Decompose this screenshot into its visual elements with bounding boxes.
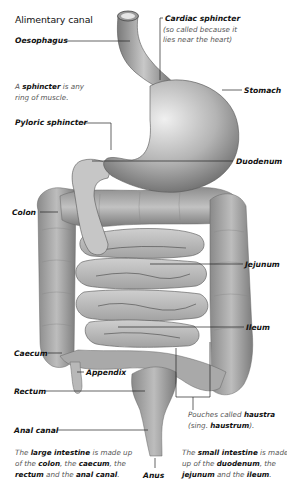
appendix-shape: [70, 362, 82, 393]
note-text: of the: [15, 459, 38, 468]
label-colon: Colon: [12, 208, 36, 217]
note-text: The: [182, 448, 198, 457]
label-rectum: Rectum: [14, 387, 46, 396]
label-duodenum: Duodenum: [236, 157, 282, 166]
note-text: The: [15, 448, 31, 457]
small-intestine-note-line3: jejunum and the ileum.: [182, 470, 272, 481]
sphincter-note-line2: ring of muscle.: [15, 93, 69, 104]
note-text: Pouches called: [188, 410, 244, 419]
small-intestine-note-line2: up of the duodenum, the: [182, 459, 276, 470]
note-text: and the: [215, 470, 247, 479]
note-text: is made: [258, 448, 287, 457]
stomach-shape: [104, 80, 239, 192]
haustra-note-line2: (sing. haustrum).: [188, 421, 254, 432]
haustra-note: Pouches called haustra: [188, 410, 275, 421]
rectum-shape: [132, 367, 177, 456]
note-text: , the: [110, 459, 126, 468]
label-jejunum: Jejunum: [245, 260, 280, 269]
label-anal-canal: Anal canal: [14, 426, 58, 435]
note-term-haustra: haustra: [244, 410, 275, 419]
large-intestine-note-line1: The large intestine is made up: [15, 448, 132, 459]
note-text: , the: [260, 459, 276, 468]
label-oesophagus: Oesophagus: [15, 36, 68, 45]
note-text: is any: [60, 82, 84, 91]
note-term-jejunum: jejunum: [182, 470, 215, 479]
note-text: and the: [44, 470, 76, 479]
label-cardiac-sphincter: Cardiac sphincter: [165, 14, 240, 23]
note-term-anal-canal: anal canal: [76, 470, 117, 479]
label-ileum: Ileum: [246, 323, 270, 332]
cardiac-note-line1: (so called because it: [163, 25, 237, 36]
note-term-ileum: ileum: [247, 470, 269, 479]
note-term-rectum: rectum: [15, 470, 44, 479]
label-appendix: Appendix: [86, 368, 126, 377]
cardiac-note-line2: lies near the heart): [163, 35, 232, 46]
note-term-large-intestine: large intestine: [31, 448, 90, 457]
small-intestine-note-line1: The small intestine is made: [182, 448, 287, 459]
note-text: .: [269, 470, 271, 479]
note-text: , the: [60, 459, 79, 468]
note-term-colon: colon: [38, 459, 60, 468]
oesophagus-shape: [117, 11, 176, 92]
note-term-sphincter: sphincter: [22, 82, 60, 91]
large-intestine-note-line2: of the colon, the caecum, the: [15, 459, 126, 470]
large-intestine-note-line3: rectum and the anal canal.: [15, 470, 120, 481]
diagram-title: Alimentary canal: [15, 14, 93, 25]
label-stomach: Stomach: [244, 86, 281, 95]
note-text: ).: [249, 421, 254, 430]
sphincter-note: A sphincter is any: [15, 82, 84, 93]
note-term-haustrum: haustrum: [210, 421, 249, 430]
note-text: up of the: [182, 459, 217, 468]
note-term-caecum: caecum: [79, 459, 110, 468]
note-text: .: [117, 470, 119, 479]
label-anus: Anus: [143, 471, 164, 480]
note-term-duodenum: duodenum: [217, 459, 260, 468]
note-term-small-intestine: small intestine: [198, 448, 258, 457]
label-pyloric-sphincter: Pyloric sphincter: [15, 118, 87, 127]
note-text: is made up: [90, 448, 132, 457]
note-text: (sing.: [188, 421, 210, 430]
label-caecum: Caecum: [14, 349, 48, 358]
